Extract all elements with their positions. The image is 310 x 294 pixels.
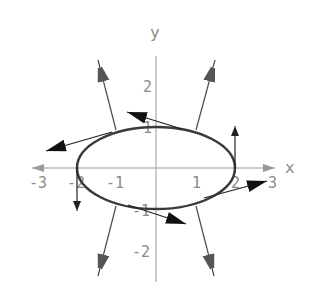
left-tangent-arrow-icon: [46, 132, 112, 151]
upper-left-normal-arrow-icon: [98, 60, 116, 130]
x-tick-label: -3: [29, 174, 47, 192]
lower-right-normal-arrow-icon: [196, 206, 214, 276]
x-tick-label: 1: [192, 174, 201, 192]
ellipse-diagram: x y -3 -2 -1 1 2 3 2 1 -1 -2: [0, 0, 310, 294]
x-tick-label: 3: [268, 174, 277, 192]
upper-right-normal-arrow-icon: [196, 60, 215, 130]
y-tick-label: 2: [143, 78, 152, 96]
y-tick-label: -2: [132, 243, 150, 261]
lower-left-normal-arrow-icon: [98, 206, 116, 276]
x-tick-label: -1: [106, 174, 124, 192]
x-axis-label: x: [285, 158, 295, 177]
y-axis-label: y: [150, 23, 160, 42]
